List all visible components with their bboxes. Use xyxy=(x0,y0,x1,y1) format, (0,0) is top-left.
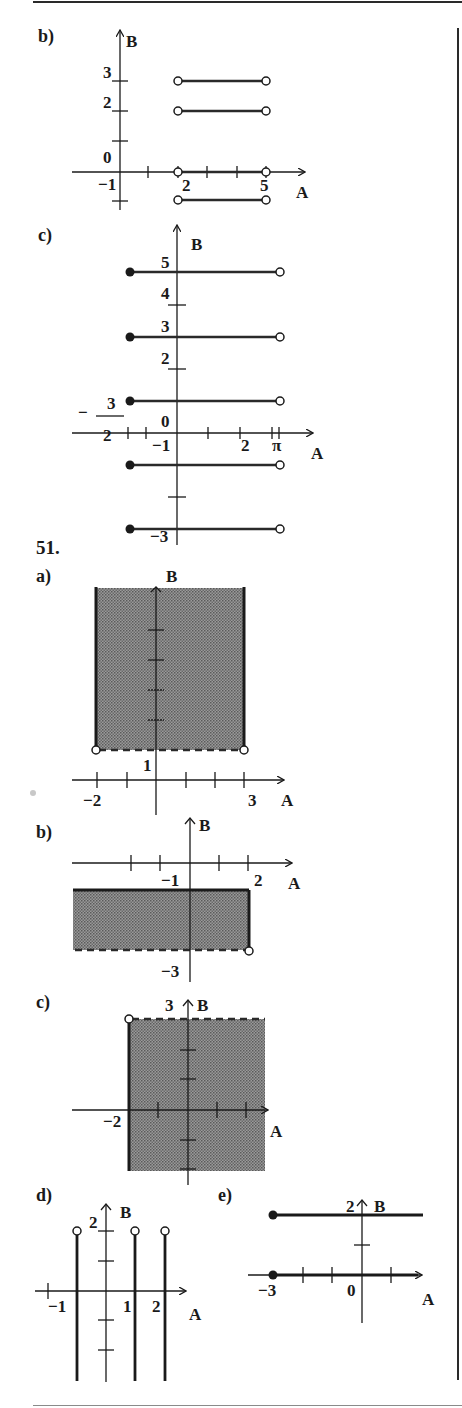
svg-text:−3: −3 xyxy=(258,1281,276,1300)
svg-text:0: 0 xyxy=(347,1281,356,1300)
svg-text:A: A xyxy=(422,1290,435,1309)
svg-text:B: B xyxy=(374,1197,385,1216)
graph-51e: B 2 A −3 0 xyxy=(0,0,462,1408)
svg-text:2: 2 xyxy=(346,1197,355,1216)
